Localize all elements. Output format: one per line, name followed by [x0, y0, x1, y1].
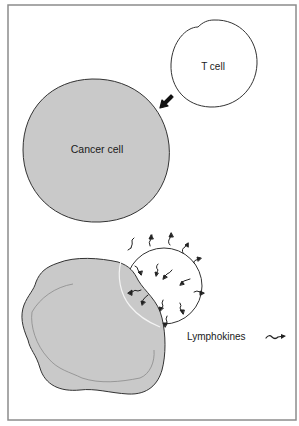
cancer-cell-label: Cancer cell	[71, 143, 124, 155]
tcell-cancer-diagram: T cell Cancer cell	[0, 0, 299, 426]
t-cell-label: T cell	[201, 61, 225, 72]
t-cell: T cell	[171, 20, 257, 107]
cancer-cell: Cancer cell	[23, 79, 169, 222]
lymphokines-label: Lymphokines	[187, 331, 246, 342]
